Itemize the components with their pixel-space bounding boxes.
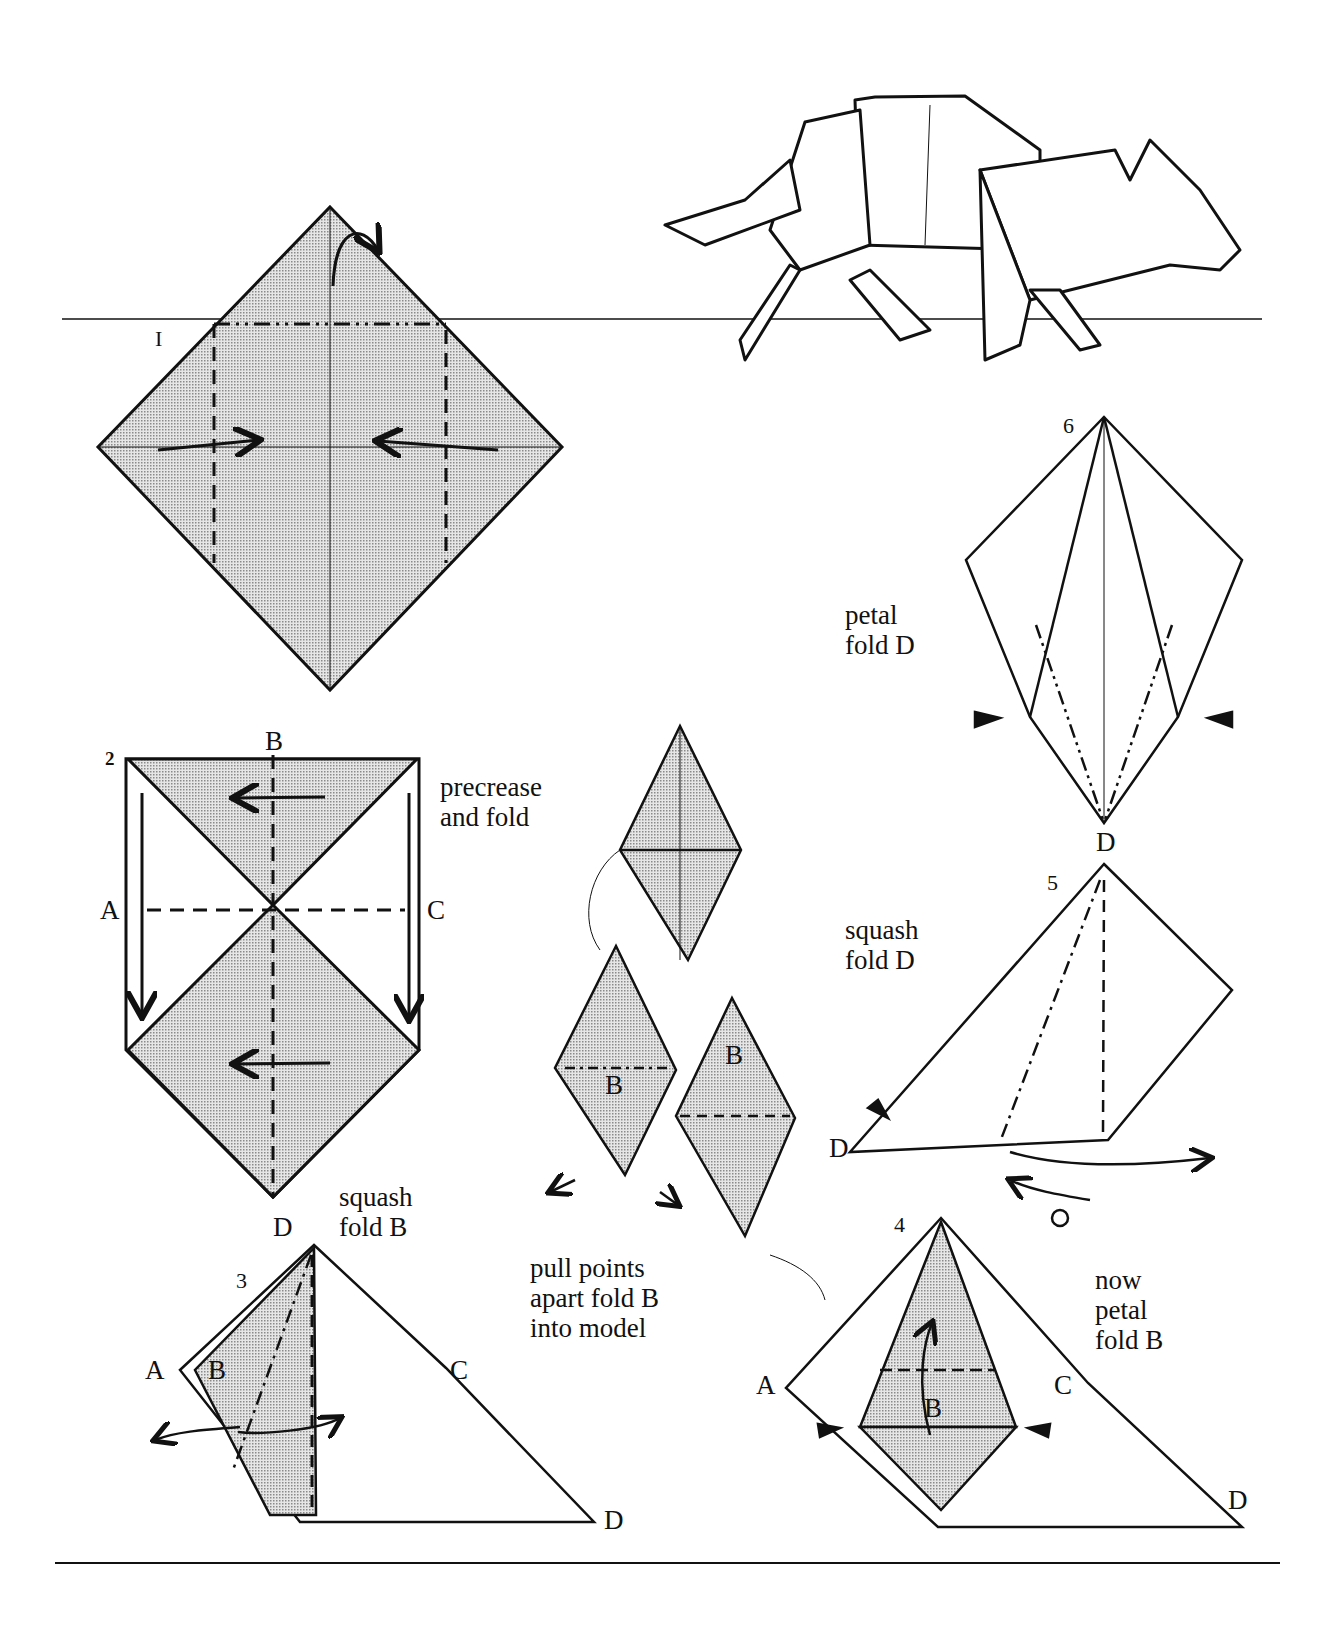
- step-number-3: 3: [236, 1268, 247, 1294]
- label-a-step2: A: [100, 895, 120, 925]
- label-d-step3: D: [604, 1505, 624, 1535]
- label-d-step5-left: D: [829, 1133, 849, 1163]
- step-number-6: 6: [1063, 413, 1074, 439]
- step-2-diagram: [126, 755, 419, 1197]
- instruction-squash-fold-b: squash fold B: [339, 1182, 413, 1242]
- label-b-intermediate-1: B: [605, 1070, 623, 1100]
- step-1-diagram: [98, 207, 562, 690]
- cat-model-drawing: [665, 96, 1240, 360]
- step-6-diagram: [966, 417, 1242, 823]
- label-c-step4: C: [1054, 1370, 1072, 1400]
- label-d-step6: D: [1096, 827, 1116, 857]
- instruction-precrease: precrease and fold: [440, 772, 542, 832]
- label-b-step2: B: [265, 726, 283, 756]
- step-number-1: I: [155, 326, 162, 352]
- label-b-step3: B: [208, 1355, 226, 1385]
- label-c-step3: C: [450, 1355, 468, 1385]
- step-4-diagram: [786, 1180, 1242, 1527]
- origami-diagram: [0, 0, 1330, 1626]
- label-d-step4: D: [1228, 1485, 1248, 1515]
- label-a-step3: A: [145, 1355, 165, 1385]
- instruction-petal-fold-d: petal fold D: [845, 600, 915, 660]
- label-c-step2: C: [427, 895, 445, 925]
- step-5-diagram: [850, 864, 1232, 1164]
- step-number-4: 4: [894, 1212, 905, 1238]
- label-b-step4: B: [924, 1393, 942, 1423]
- step-number-2: 2: [105, 748, 115, 770]
- step-number-5: 5: [1047, 870, 1058, 896]
- label-a-step4: A: [756, 1370, 776, 1400]
- instruction-squash-fold-d: squash fold D: [845, 915, 919, 975]
- instruction-pull-points: pull points apart fold B into model: [530, 1253, 659, 1343]
- label-b-intermediate-2: B: [725, 1040, 743, 1070]
- instruction-petal-fold-b: now petal fold B: [1095, 1265, 1163, 1355]
- label-d-step2: D: [273, 1212, 293, 1242]
- intermediate-diagrams: [550, 726, 825, 1300]
